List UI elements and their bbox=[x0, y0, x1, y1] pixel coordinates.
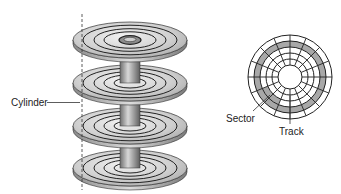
hard-disk-diagram: Cylinder bbox=[0, 0, 341, 194]
disk-stack bbox=[47, 14, 187, 190]
platter-face bbox=[248, 35, 332, 124]
sector-label: Sector bbox=[226, 113, 256, 124]
track-label: Track bbox=[279, 126, 305, 137]
cylinder-label: Cylinder bbox=[11, 97, 48, 108]
platter-1 bbox=[73, 22, 187, 62]
